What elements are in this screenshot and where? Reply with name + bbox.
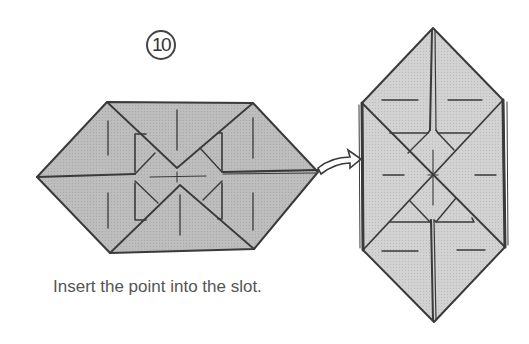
before-figure <box>37 102 318 253</box>
instruction-caption: Insert the point into the slot. <box>53 277 262 297</box>
after-figure <box>359 28 508 322</box>
insert-arrow-icon <box>318 150 361 174</box>
